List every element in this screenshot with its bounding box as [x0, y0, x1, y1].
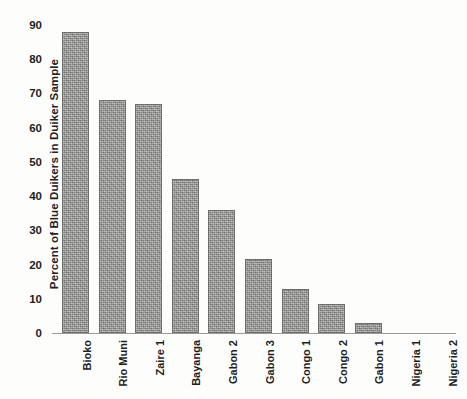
x-tick-label: Congo 1 — [300, 340, 312, 399]
x-tick-label: Gabon 3 — [264, 340, 276, 399]
y-tick-label: 60 — [14, 122, 42, 134]
x-tick-label: Zaire 1 — [154, 340, 166, 399]
x-axis-tick-labels: BiokoRio MuniZaire 1BayangaGabon 2Gabon … — [52, 0, 456, 399]
y-tick-label: 0 — [14, 327, 42, 339]
y-tick-label: 10 — [14, 293, 42, 305]
bar-chart: Percent of Blue Duikers in Duiker Sample… — [0, 0, 467, 399]
x-tick-label: Nigeria 1 — [410, 340, 422, 399]
y-tick-label: 80 — [14, 53, 42, 65]
y-tick-label: 90 — [14, 19, 42, 31]
x-tick-label: Bioko — [81, 340, 93, 399]
y-tick-label: 70 — [14, 87, 42, 99]
x-tick-label: Bayanga — [190, 340, 202, 399]
y-tick-label: 40 — [14, 190, 42, 202]
y-tick-label: 50 — [14, 156, 42, 168]
x-tick-label: Rio Muni — [117, 340, 129, 399]
y-axis-tick-labels: 9080706050403020100 — [14, 0, 42, 399]
y-tick-label: 30 — [14, 224, 42, 236]
y-tick-label: 20 — [14, 259, 42, 271]
x-tick-label: Congo 2 — [337, 340, 349, 399]
x-tick-label: Nigeria 2 — [447, 340, 459, 399]
x-tick-label: Gabon 2 — [227, 340, 239, 399]
x-tick-label: Gabon 1 — [373, 340, 385, 399]
